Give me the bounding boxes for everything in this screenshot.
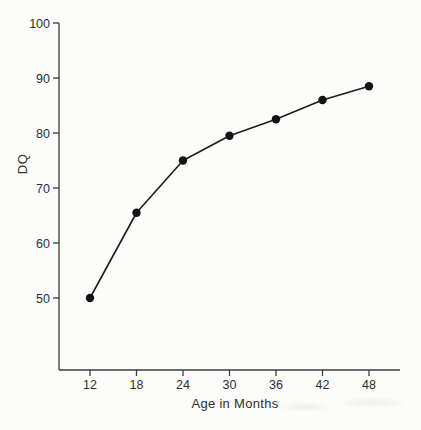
x-tick-label: 48	[362, 378, 376, 392]
data-point	[179, 156, 187, 164]
x-tick-label: 18	[130, 378, 144, 392]
x-axis-title: Age in Months	[125, 396, 345, 411]
x-tick-label: 36	[269, 378, 283, 392]
dq-vs-age-line-chart: 506070809010012182430364248	[0, 0, 421, 430]
y-tick-label: 70	[36, 182, 50, 196]
data-point	[272, 115, 280, 123]
y-tick-label: 60	[36, 237, 50, 251]
x-tick-label: 42	[316, 378, 330, 392]
y-tick-label: 100	[29, 17, 50, 31]
x-tick-label: 12	[83, 378, 97, 392]
dq-series-line	[90, 86, 369, 298]
y-tick-label: 80	[36, 127, 50, 141]
y-tick-label: 50	[36, 292, 50, 306]
data-point	[365, 82, 373, 90]
y-tick-label: 90	[36, 72, 50, 86]
data-point	[132, 209, 140, 217]
data-point	[318, 96, 326, 104]
data-point	[86, 294, 94, 302]
x-tick-label: 30	[223, 378, 237, 392]
dq-age-chart-figure: 506070809010012182430364248 Age in Month…	[0, 0, 421, 430]
y-axis-title: DQ	[6, 148, 38, 180]
data-point	[225, 132, 233, 140]
x-tick-label: 24	[176, 378, 190, 392]
